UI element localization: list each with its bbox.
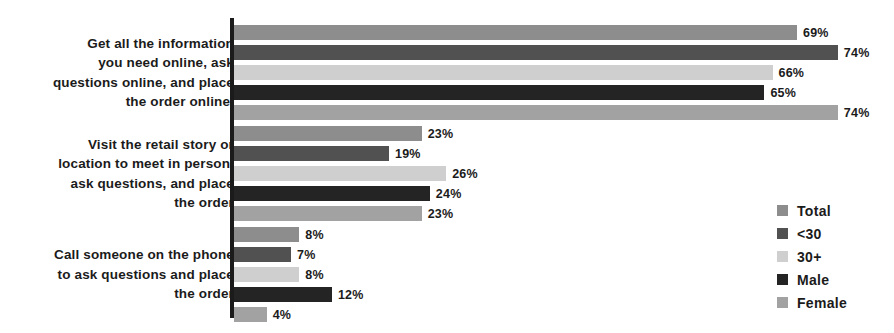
legend-label: Total — [797, 204, 831, 218]
bar-chart: Get all the information you need online,… — [0, 0, 894, 333]
bar-value-label: 24% — [436, 187, 462, 201]
bar-male — [234, 186, 430, 201]
bar-value-label: 69% — [803, 26, 829, 40]
bar-value-label: 12% — [338, 288, 364, 302]
bar-group: Get all the information you need online,… — [0, 25, 894, 120]
bar-30 — [234, 146, 389, 161]
bar-value-label: 65% — [770, 86, 796, 100]
category-label: Visit the retail story or location to me… — [24, 135, 234, 213]
bar-female — [234, 206, 422, 221]
legend-swatch-icon — [777, 251, 788, 262]
legend-label: <30 — [797, 227, 822, 241]
bar-female — [234, 307, 267, 322]
bar-value-label: 66% — [779, 66, 805, 80]
legend-item-30[interactable]: <30 — [777, 222, 847, 245]
bar-value-label: 8% — [305, 268, 323, 282]
bar-row: 19% — [234, 146, 894, 161]
legend-item-female[interactable]: Female — [777, 291, 847, 314]
bar-group: Visit the retail story or location to me… — [0, 126, 894, 221]
legend-swatch-icon — [777, 228, 788, 239]
legend-swatch-icon — [777, 297, 788, 308]
chart-legend: Total<3030+MaleFemale — [777, 199, 847, 314]
bar-group: Call someone on the phone to ask questio… — [0, 227, 894, 322]
legend-label: Male — [797, 273, 829, 287]
bar-total — [234, 126, 422, 141]
legend-swatch-icon — [777, 274, 788, 285]
bar-value-label: 74% — [844, 106, 870, 120]
bar-row: 74% — [234, 45, 894, 60]
bar-female — [234, 105, 838, 120]
legend-label: 30+ — [797, 250, 822, 264]
bar-value-label: 7% — [297, 248, 315, 262]
bar-value-label: 4% — [273, 308, 291, 322]
bar-male — [234, 287, 332, 302]
category-label: Call someone on the phone to ask questio… — [24, 245, 234, 304]
bar-value-label: 8% — [305, 228, 323, 242]
bar-row: 65% — [234, 85, 894, 100]
legend-swatch-icon — [777, 205, 788, 216]
legend-item-total[interactable]: Total — [777, 199, 847, 222]
bar-value-label: 23% — [428, 127, 454, 141]
bar-row: 74% — [234, 105, 894, 120]
bar-30 — [234, 45, 838, 60]
category-label: Get all the information you need online,… — [24, 34, 234, 112]
bar-male — [234, 85, 764, 100]
bar-row: 66% — [234, 65, 894, 80]
legend-label: Female — [797, 296, 847, 310]
bar-row: 69% — [234, 25, 894, 40]
bar-30 — [234, 267, 299, 282]
bar-30 — [234, 65, 773, 80]
bar-row: 26% — [234, 166, 894, 181]
bar-total — [234, 25, 797, 40]
bar-value-label: 23% — [428, 207, 454, 221]
bar-value-label: 26% — [452, 167, 478, 181]
bar-value-label: 19% — [395, 147, 421, 161]
bar-value-label: 74% — [844, 46, 870, 60]
legend-item-male[interactable]: Male — [777, 268, 847, 291]
bar-30 — [234, 247, 291, 262]
bar-30 — [234, 166, 446, 181]
bar-total — [234, 227, 299, 242]
legend-item-30[interactable]: 30+ — [777, 245, 847, 268]
bar-row: 23% — [234, 126, 894, 141]
